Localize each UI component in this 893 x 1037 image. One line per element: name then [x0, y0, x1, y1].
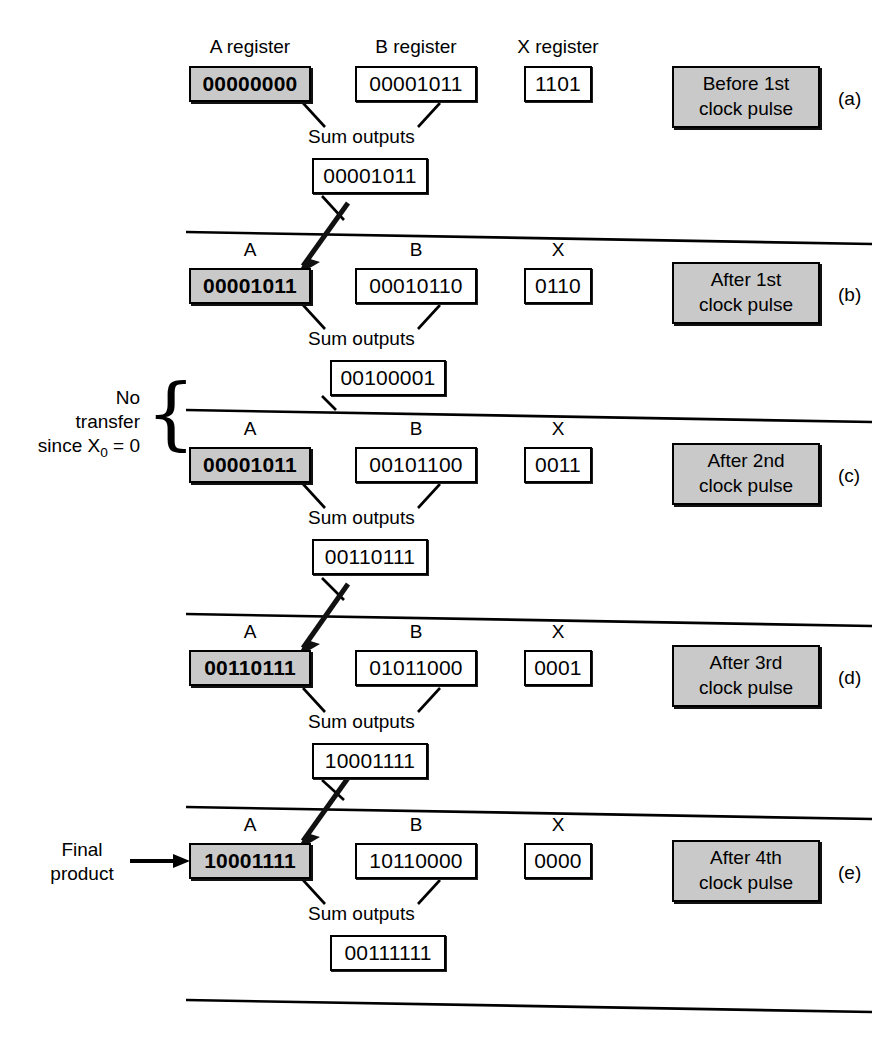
- connector-b-to-sum-a: [418, 103, 440, 127]
- register-caption-x-stage-e: X: [524, 814, 592, 836]
- a-register-box-stage-d: 00110111: [189, 650, 311, 686]
- b-register-box-stage-d: 01011000: [355, 650, 477, 686]
- register-caption-b-stage-c: B: [355, 418, 477, 440]
- register-caption-b-stage-e: B: [355, 814, 477, 836]
- sum-outputs-label-stage-e: Sum outputs: [308, 903, 415, 925]
- phase-box-stage-b: After 1st clock pulse: [672, 262, 820, 324]
- sum-outputs-box-stage-e: 00111111: [330, 935, 446, 971]
- phase-line-1: After 4th: [710, 846, 782, 871]
- sum-outputs-box-stage-d: 10001111: [312, 743, 428, 779]
- stage-tag-d: (d): [838, 667, 861, 689]
- no-transfer-note: No transfer since X0 = 0: [8, 386, 140, 460]
- a-register-box-stage-e: 10001111: [189, 843, 311, 879]
- final-product-note: Final product: [36, 838, 128, 886]
- connector-a-to-sum-a: [303, 103, 325, 127]
- final-product-line-1: Final: [36, 838, 128, 862]
- figure-canvas: A register 00000000 B register 00001011 …: [0, 0, 893, 1037]
- connector-b-to-sum-d: [418, 688, 440, 712]
- x-register-box-stage-d: 0001: [524, 650, 592, 686]
- register-caption-x-stage-c: X: [524, 418, 592, 440]
- a-register-box-stage-c: 00001011: [189, 447, 311, 483]
- b-register-box-stage-b: 00010110: [355, 268, 477, 304]
- register-caption-x-stage-d: X: [524, 621, 592, 643]
- register-caption-b-stage-b: B: [355, 239, 477, 261]
- register-caption-b-stage-d: B: [355, 621, 477, 643]
- x-register-box-stage-e: 0000: [524, 843, 592, 879]
- final-product-arrow: [130, 854, 190, 868]
- phase-line-1: After 1st: [711, 268, 782, 293]
- sum-outputs-label-stage-b: Sum outputs: [308, 328, 415, 350]
- no-transfer-line-2: transfer: [8, 410, 140, 434]
- x-register-box-stage-c: 0011: [524, 447, 592, 483]
- x-register-box-stage-b: 0110: [524, 268, 592, 304]
- no-transfer-line-3-pre: since X: [38, 435, 100, 456]
- a-register-box-stage-a: 00000000: [189, 66, 311, 102]
- register-caption-x-register: X register: [510, 36, 606, 58]
- no-transfer-line-1: No: [8, 386, 140, 410]
- sum-outputs-box-stage-b: 00100001: [330, 360, 446, 396]
- phase-line-1: After 2nd: [707, 449, 784, 474]
- register-caption-a-stage-b: A: [189, 239, 311, 261]
- phase-line-2: clock pulse: [699, 871, 793, 896]
- connector-a-to-sum-b: [303, 305, 325, 329]
- connector-a-to-sum-d: [303, 688, 325, 712]
- x-register-box-stage-a: 1101: [524, 66, 592, 102]
- connector-a-to-sum-e: [303, 880, 325, 904]
- phase-line-1: Before 1st: [703, 72, 790, 97]
- connector-sum-down-b: [322, 396, 336, 410]
- phase-line-1: After 3rd: [710, 651, 783, 676]
- stage-tag-e: (e): [838, 862, 861, 884]
- connector-b-to-sum-c: [418, 484, 440, 508]
- connector-a-to-sum-c: [303, 484, 325, 508]
- phase-line-2: clock pulse: [699, 474, 793, 499]
- no-transfer-subscript: 0: [100, 444, 108, 459]
- connector-b-to-sum-b: [418, 305, 440, 329]
- phase-box-stage-c: After 2nd clock pulse: [672, 443, 820, 505]
- register-caption-x-stage-b: X: [524, 239, 592, 261]
- stage-tag-c: (c): [838, 465, 860, 487]
- register-caption-a-stage-d: A: [189, 621, 311, 643]
- stage-tag-b: (b): [838, 284, 861, 306]
- sum-outputs-box-stage-c: 00110111: [312, 539, 428, 575]
- a-register-box-stage-b: 00001011: [189, 268, 311, 304]
- b-register-box-stage-e: 10110000: [355, 843, 477, 879]
- phase-line-2: clock pulse: [699, 97, 793, 122]
- curly-brace-icon: {: [146, 374, 196, 452]
- register-caption-a-stage-c: A: [189, 418, 311, 440]
- phase-box-stage-e: After 4th clock pulse: [672, 840, 820, 902]
- sum-outputs-label-stage-c: Sum outputs: [308, 507, 415, 529]
- connector-sum-down-a: [322, 196, 344, 220]
- phase-box-stage-d: After 3rd clock pulse: [672, 645, 820, 707]
- sum-outputs-box-stage-a: 00001011: [312, 158, 428, 194]
- phase-box-stage-a: Before 1st clock pulse: [672, 66, 820, 128]
- connector-b-to-sum-e: [418, 880, 440, 904]
- connector-sum-down-d: [322, 780, 344, 800]
- sum-outputs-label-stage-d: Sum outputs: [308, 711, 415, 733]
- register-caption-b-register: B register: [355, 36, 477, 58]
- phase-line-2: clock pulse: [699, 293, 793, 318]
- no-transfer-line-3-post: = 0: [108, 435, 140, 456]
- stage-tag-a: (a): [838, 88, 861, 110]
- no-transfer-line-3: since X0 = 0: [8, 434, 140, 461]
- connector-sum-down-c: [322, 578, 344, 600]
- b-register-box-stage-c: 00101100: [355, 447, 477, 483]
- register-caption-a-register: A register: [189, 36, 311, 58]
- sum-outputs-label-stage-a: Sum outputs: [308, 126, 415, 148]
- b-register-box-stage-a: 00001011: [355, 66, 477, 102]
- register-caption-a-stage-e: A: [189, 814, 311, 836]
- separator-line-5: [186, 1000, 872, 1012]
- final-product-line-2: product: [36, 862, 128, 886]
- phase-line-2: clock pulse: [699, 676, 793, 701]
